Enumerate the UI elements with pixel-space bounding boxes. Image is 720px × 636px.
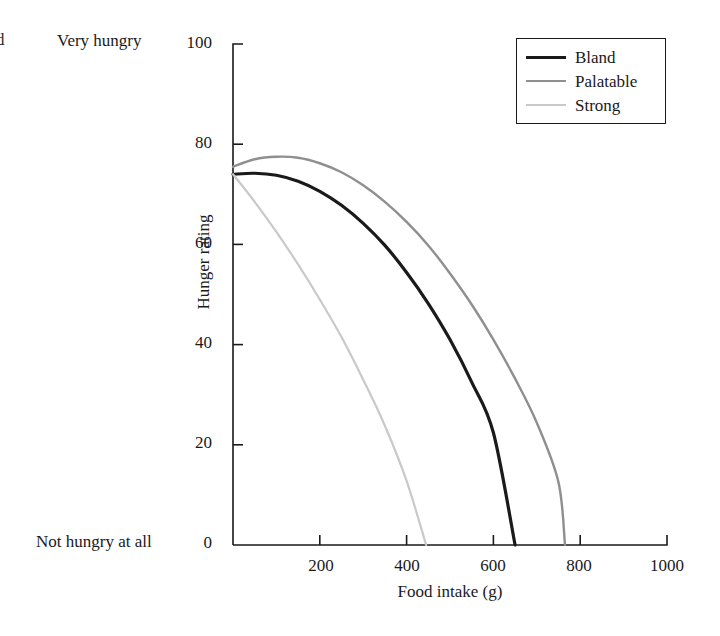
legend-label-strong: Strong <box>575 97 620 114</box>
legend-label-palatable: Palatable <box>575 73 637 90</box>
legend-item-palatable: Palatable <box>517 69 665 93</box>
legend-item-bland: Bland <box>517 45 665 69</box>
hunger-rating-figure: d Very hungry Not hungry at all Hunger r… <box>0 0 720 636</box>
series-line-palatable <box>233 157 565 545</box>
data-series-group <box>233 157 565 545</box>
chart-legend: Bland Palatable Strong <box>516 38 666 124</box>
legend-line-swatch-strong <box>526 104 566 106</box>
legend-item-strong: Strong <box>517 93 665 117</box>
legend-line-swatch-palatable <box>526 80 566 82</box>
legend-line-swatch-bland <box>526 56 566 59</box>
legend-label-bland: Bland <box>575 49 616 66</box>
series-line-strong <box>233 174 426 545</box>
y-axis-ticks <box>233 144 243 445</box>
x-axis-ticks <box>320 535 580 545</box>
